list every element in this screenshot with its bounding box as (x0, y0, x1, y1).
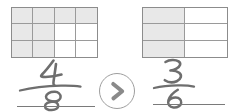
handwritten-fraction-right: 3/6 (150, 58, 233, 110)
grid-cell[interactable] (12, 8, 33, 24)
grid-cell[interactable] (76, 24, 97, 40)
grid-cell[interactable] (76, 41, 97, 57)
numerator-4-glyph (41, 61, 61, 86)
comparison-operator-badge[interactable]: > (99, 73, 135, 109)
answer-baseline-left (17, 106, 95, 107)
fraction-model-left[interactable] (11, 7, 98, 58)
numerator-3-glyph (165, 60, 181, 82)
grid-cell[interactable] (185, 8, 227, 24)
grid-cell[interactable] (143, 41, 185, 57)
grid-cell[interactable] (55, 24, 76, 40)
grid-cell[interactable] (143, 24, 185, 40)
grid-cell[interactable] (55, 41, 76, 57)
grid-cell[interactable] (12, 41, 33, 57)
handwritten-fraction-left-ink (14, 58, 104, 110)
grid-cell[interactable] (143, 8, 185, 24)
grid-cell[interactable] (12, 24, 33, 40)
grid-cell[interactable] (76, 8, 97, 24)
grid-cell[interactable] (33, 24, 54, 40)
grid-cell[interactable] (33, 8, 54, 24)
fraction-comparison-worksheet: Compare the shaded fraction models 4/8 (0, 0, 233, 112)
fraction-model-right[interactable] (142, 7, 228, 58)
page-title: Compare the shaded fraction models (0, 21, 1, 22)
greater-than-icon (100, 74, 134, 108)
denominator-8-glyph (45, 92, 61, 110)
grid-cell[interactable] (33, 41, 54, 57)
grid-cell[interactable] (55, 8, 76, 24)
fraction-bar-left (20, 86, 81, 91)
answer-baseline-right (153, 104, 225, 105)
grid-cell[interactable] (185, 41, 227, 57)
handwritten-fraction-left: 4/8 (14, 58, 104, 110)
handwritten-fraction-right-ink (150, 58, 230, 110)
fraction-bar-right (154, 85, 194, 88)
grid-cell[interactable] (185, 24, 227, 40)
